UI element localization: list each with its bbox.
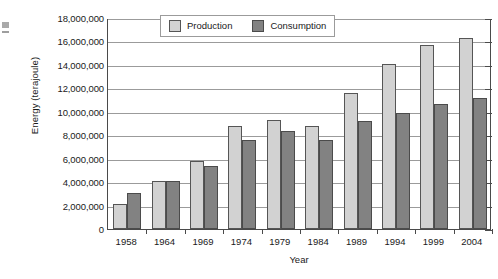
x-axis-tick-labels: 1958196419691974197919841989199419992004: [107, 236, 491, 250]
chart-figure: Energy (terajoule) 18,000,00016,000,0001…: [0, 0, 498, 279]
bar-group: [190, 19, 218, 229]
x-axis-tick: [454, 229, 455, 234]
x-tick-label: 1994: [384, 236, 405, 247]
right-axis-tick: [485, 230, 492, 231]
bar-group: [267, 19, 295, 229]
y-tick-label: 4,000,000: [24, 178, 104, 188]
bar-production: [344, 93, 358, 229]
x-tick-label: 1984: [308, 236, 329, 247]
y-tick-label: 18,000,000: [24, 14, 104, 24]
bar-consumption: [166, 181, 180, 229]
x-axis-tick: [338, 229, 339, 234]
x-tick-label: 1989: [346, 236, 367, 247]
legend-label-consumption: Consumption: [270, 21, 326, 31]
bar-production: [459, 38, 473, 229]
bar-consumption: [396, 113, 410, 229]
x-tick-label: 1979: [269, 236, 290, 247]
y-tick-label: 12,000,000: [24, 84, 104, 94]
x-tick-label: 1974: [231, 236, 252, 247]
x-tick-label: 1969: [192, 236, 213, 247]
x-axis-tick: [415, 229, 416, 234]
x-axis-tick: [377, 229, 378, 234]
bar-consumption: [434, 104, 448, 229]
y-tick-label: 2,000,000: [24, 202, 104, 212]
chart-legend: Production Consumption: [160, 15, 335, 37]
bar-group: [459, 19, 487, 229]
bar-group: [420, 19, 448, 229]
bar-production: [305, 126, 319, 229]
bar-consumption: [358, 121, 372, 229]
bar-consumption: [242, 140, 256, 229]
bar-consumption: [281, 131, 295, 229]
bar-production: [113, 204, 127, 229]
x-tick-label: 2004: [461, 236, 482, 247]
y-axis-tick-labels: 18,000,00016,000,00014,000,00012,000,000…: [24, 0, 104, 279]
x-tick-label: 1999: [423, 236, 444, 247]
bar-group: [305, 19, 333, 229]
bar-group: [344, 19, 372, 229]
bar-production: [267, 120, 281, 229]
bar-consumption: [204, 166, 218, 229]
bar-consumption: [319, 140, 333, 229]
x-axis-title: Year: [107, 254, 491, 265]
legend-item-production: Production: [169, 20, 232, 32]
bar-production: [382, 64, 396, 229]
y-tick-label: 10,000,000: [24, 108, 104, 118]
legend-swatch-consumption-icon: [252, 20, 264, 32]
x-axis-tick: [262, 229, 263, 234]
plot-area: [107, 19, 491, 230]
y-tick-label: 8,000,000: [24, 131, 104, 141]
y-tick-label: 14,000,000: [24, 61, 104, 71]
y-tick-label: 16,000,000: [24, 37, 104, 47]
y-tick-label: 0: [24, 225, 104, 235]
x-axis-tick: [300, 229, 301, 234]
bar-group: [152, 19, 180, 229]
y-tick-label: 6,000,000: [24, 155, 104, 165]
legend-item-consumption: Consumption: [252, 20, 326, 32]
x-tick-label: 1964: [154, 236, 175, 247]
legend-label-production: Production: [187, 21, 232, 31]
x-axis-tick: [492, 229, 493, 234]
x-axis-tick: [185, 229, 186, 234]
scan-artifact: [2, 22, 9, 36]
legend-swatch-production-icon: [169, 20, 181, 32]
bar-group: [228, 19, 256, 229]
bar-production: [190, 161, 204, 229]
x-axis-tick: [223, 229, 224, 234]
bar-consumption: [127, 193, 141, 229]
bar-groups: [108, 19, 491, 229]
x-tick-label: 1958: [116, 236, 137, 247]
bar-production: [420, 45, 434, 229]
x-axis-tick: [146, 229, 147, 234]
bar-group: [113, 19, 141, 229]
bar-production: [152, 181, 166, 229]
bar-production: [228, 126, 242, 229]
bar-consumption: [473, 98, 487, 229]
bar-group: [382, 19, 410, 229]
